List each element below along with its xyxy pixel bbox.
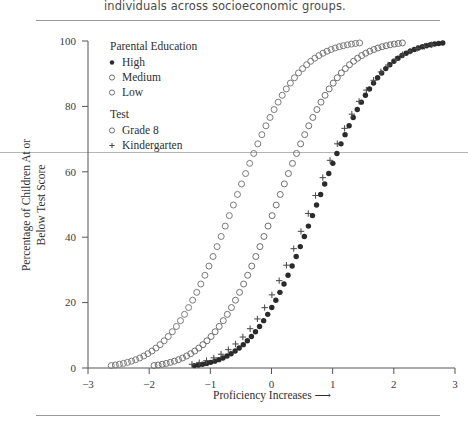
- data-point-open-circle: [222, 223, 228, 229]
- series-high: [192, 40, 446, 368]
- data-point-open-circle: [314, 107, 320, 113]
- x-axis-ticks: −3−2−10123: [82, 368, 458, 390]
- data-point-open-circle: [399, 40, 405, 46]
- y-tick-label: 0: [71, 362, 77, 374]
- data-point-plus: [276, 277, 282, 283]
- data-point-open-circle: [228, 305, 234, 311]
- data-point-filled-circle: [285, 273, 290, 278]
- data-point-filled-circle: [253, 329, 258, 334]
- data-point-open-circle: [383, 43, 389, 49]
- data-point-plus: [291, 245, 297, 251]
- data-point-filled-circle: [355, 107, 360, 112]
- data-point-open-circle: [271, 107, 277, 113]
- data-point-filled-circle: [375, 75, 380, 80]
- data-point-open-circle: [261, 233, 267, 239]
- legend-marker-low: [109, 90, 114, 95]
- data-point-open-circle: [218, 233, 224, 239]
- data-point-filled-circle: [330, 161, 335, 166]
- data-point-open-circle: [322, 92, 328, 98]
- data-point-open-circle: [263, 123, 269, 129]
- data-point-open-circle: [120, 360, 126, 366]
- x-tick-label: −2: [143, 378, 155, 390]
- y-axis-ticks: 020406080100: [60, 35, 89, 374]
- data-point-open-circle: [234, 191, 240, 197]
- data-point-open-circle: [241, 281, 247, 287]
- data-point-open-circle: [194, 289, 200, 295]
- data-point-open-circle: [279, 92, 285, 98]
- data-point-filled-circle: [273, 297, 278, 302]
- data-point-open-circle: [357, 40, 363, 46]
- data-point-open-circle: [251, 150, 257, 156]
- data-point-open-circle: [245, 272, 251, 278]
- data-point-filled-circle: [245, 338, 250, 343]
- data-point-filled-circle: [302, 234, 307, 239]
- data-point-open-circle: [169, 329, 175, 335]
- data-point-filled-circle: [346, 123, 351, 128]
- y-tick-label: 40: [65, 231, 77, 243]
- data-point-open-circle: [306, 123, 312, 129]
- data-point-filled-circle: [318, 192, 323, 197]
- data-point-filled-circle: [281, 281, 286, 286]
- data-point-open-circle: [294, 150, 300, 156]
- x-axis-title: Proficiency Increases ⟶: [213, 389, 332, 402]
- legend-group-title: Test: [110, 108, 130, 120]
- y-tick-label: 60: [65, 166, 77, 178]
- data-point-plus: [298, 228, 304, 234]
- data-point-filled-circle: [241, 342, 246, 347]
- y-tick-label: 80: [65, 100, 77, 112]
- data-point-filled-circle: [314, 202, 319, 207]
- data-point-open-circle: [379, 44, 385, 50]
- legend-marker-grade-8: [109, 128, 114, 133]
- y-tick-label: 20: [65, 296, 77, 308]
- data-point-open-circle: [226, 213, 232, 219]
- data-point-filled-circle: [289, 263, 294, 268]
- data-point-open-circle: [340, 43, 346, 49]
- data-point-open-circle: [163, 360, 169, 366]
- x-tick-label: 2: [391, 378, 397, 390]
- data-point-plus: [320, 174, 326, 180]
- data-point-open-circle: [153, 345, 159, 351]
- data-point-open-circle: [375, 45, 381, 51]
- data-point-open-circle: [273, 202, 279, 208]
- data-point-open-circle: [182, 311, 188, 317]
- data-point-filled-circle: [440, 40, 445, 45]
- legend-label-high: High: [122, 56, 145, 69]
- data-point-plus: [261, 304, 267, 310]
- y-tick-label: 100: [60, 35, 77, 47]
- data-point-open-circle: [265, 223, 271, 229]
- data-point-filled-circle: [322, 181, 327, 186]
- data-point-plus: [312, 192, 318, 198]
- data-point-filled-circle: [379, 70, 384, 75]
- data-point-open-circle: [173, 323, 179, 329]
- data-point-open-circle: [302, 132, 308, 138]
- legend-label-kindergarten: Kindergarten: [122, 139, 183, 152]
- legend-label-low: Low: [122, 86, 144, 98]
- data-point-open-circle: [247, 160, 253, 166]
- data-point-open-circle: [237, 289, 243, 295]
- data-point-plus: [283, 262, 289, 268]
- series-low: [108, 40, 362, 369]
- data-point-open-circle: [198, 281, 204, 287]
- data-point-filled-circle: [257, 324, 262, 329]
- data-point-open-circle: [210, 254, 216, 260]
- data-point-open-circle: [206, 263, 212, 269]
- data-point-open-circle: [202, 272, 208, 278]
- data-point-open-circle: [310, 114, 316, 120]
- data-point-open-circle: [177, 318, 183, 324]
- data-point-open-circle: [230, 202, 236, 208]
- proficiency-scatter-chart: 020406080100 −3−2−10123 Percentage of Ch…: [0, 0, 468, 429]
- data-point-open-circle: [171, 358, 177, 364]
- data-point-plus: [269, 292, 275, 298]
- data-point-open-circle: [159, 361, 165, 367]
- data-point-open-circle: [190, 297, 196, 303]
- data-point-plus: [254, 316, 260, 322]
- data-point-open-circle: [116, 361, 122, 367]
- data-point-filled-circle: [342, 132, 347, 137]
- data-point-filled-circle: [249, 334, 254, 339]
- data-point-open-circle: [326, 86, 332, 92]
- data-point-open-circle: [125, 359, 131, 365]
- data-point-open-circle: [253, 254, 259, 260]
- data-point-open-circle: [239, 181, 245, 187]
- data-point-open-circle: [259, 132, 265, 138]
- y-axis-title: Percentage of Children At or Below Test …: [20, 139, 47, 271]
